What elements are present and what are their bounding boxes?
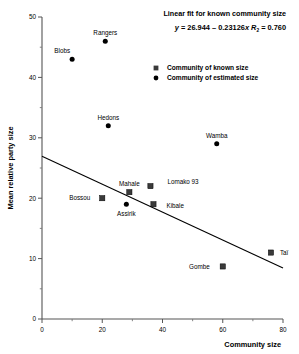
fit-equation: y = 26.944 – 0.23126x R2 = 0.760: [174, 23, 286, 33]
plot-canvas: 01020304050020406080Community sizeMean r…: [0, 0, 299, 354]
data-point-label: Kibale: [166, 202, 184, 209]
data-point-label: Hedons: [97, 114, 119, 121]
legend-label: Community of estimated size: [167, 74, 259, 82]
y-tick-label: 40: [29, 74, 37, 81]
data-point-label: Assirik: [117, 210, 136, 217]
data-point-label: Blobs: [54, 47, 70, 54]
data-point-circle[interactable]: [103, 39, 108, 44]
y-tick-label: 50: [29, 13, 37, 20]
data-point-label: Wamba: [206, 132, 228, 139]
x-tick-label: 80: [279, 326, 287, 333]
x-tick-label: 20: [99, 326, 107, 333]
data-point-square[interactable]: [100, 196, 105, 201]
x-tick-label: 40: [159, 326, 167, 333]
data-point-circle[interactable]: [124, 202, 129, 207]
data-point-square[interactable]: [127, 190, 132, 195]
x-tick-label: 0: [40, 326, 44, 333]
data-point-circle[interactable]: [214, 141, 219, 146]
y-tick-label: 30: [29, 134, 37, 141]
x-tick-label: 60: [219, 326, 227, 333]
y-tick-label: 10: [29, 255, 37, 262]
legend-label: Community of known size: [167, 64, 249, 72]
data-point-label: Rangers: [93, 29, 117, 37]
y-tick-label: 0: [32, 315, 36, 322]
data-point-label: Taï: [280, 249, 289, 256]
y-axis-title: Mean relative party size: [6, 127, 15, 210]
data-point-square[interactable]: [268, 250, 273, 255]
data-point-square[interactable]: [151, 202, 156, 207]
data-point-circle[interactable]: [70, 57, 75, 62]
data-point-label: Mahale: [119, 180, 140, 187]
regression-line: [42, 156, 283, 268]
data-point-label: Lomako 93: [167, 178, 199, 185]
data-point-square[interactable]: [220, 264, 225, 269]
data-point-label: Bossou: [69, 194, 91, 201]
data-point-square[interactable]: [148, 184, 153, 189]
legend-marker-square: [154, 66, 159, 71]
data-point-circle[interactable]: [106, 123, 111, 128]
scatter-chart-figure: 01020304050020406080Community sizeMean r…: [0, 0, 299, 354]
chart-title: Linear fit for known community size: [163, 9, 286, 18]
y-tick-label: 20: [29, 195, 37, 202]
x-axis-title: Community size: [224, 340, 281, 349]
legend-marker-circle: [154, 76, 159, 81]
data-point-label: Gombe: [189, 263, 210, 270]
